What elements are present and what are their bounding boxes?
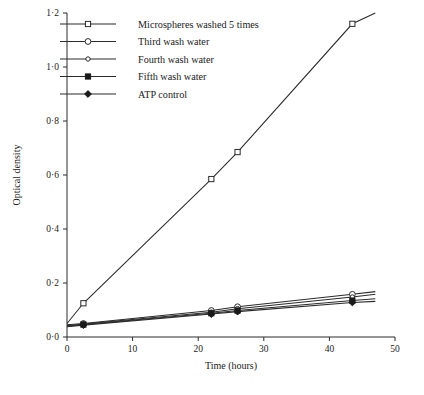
y-tick-label: 1·2 [46,8,59,18]
x-tick-label: 0 [65,344,70,354]
data-point-marker [81,301,86,306]
y-tick-label: 0·4 [46,224,59,234]
optical-density-line-chart: 0·00·20·40·60·81·01·2 01020304050 Time (… [0,0,424,395]
chart-legend: Microspheres washed 5 timesThird wash wa… [60,19,259,100]
legend-entry-2: Fourth wash water [60,54,214,65]
x-tick-label: 30 [259,344,269,354]
y-axis-title: Optical density [11,145,22,206]
x-tick-label: 40 [325,344,335,354]
data-series-group [67,13,375,327]
data-point-marker [235,149,240,154]
y-tick-label: 0·6 [46,170,59,180]
legend-label: ATP control [138,89,187,100]
legend-label: Fourth wash water [138,54,214,65]
legend-entry-4: ATP control [60,89,187,100]
data-point-marker [350,21,355,26]
legend-label: Fifth wash water [138,71,207,82]
data-point-marker [209,176,214,181]
series-line-0 [67,13,375,324]
data-point-marker [85,39,91,45]
y-tick-label: 0·0 [46,332,59,342]
series-line-4 [67,301,375,326]
legend-entry-3: Fifth wash water [60,71,207,82]
chart-figure: 0·00·20·40·60·81·01·2 01020304050 Time (… [0,0,424,395]
x-tick-label: 20 [193,344,203,354]
data-markers-group [80,21,356,328]
data-point-marker [86,57,90,61]
y-tick-label: 0·8 [46,116,59,126]
data-point-marker [85,74,90,79]
data-point-marker [85,91,92,98]
data-point-marker [85,21,90,26]
x-tick-label: 10 [128,344,138,354]
legend-entry-0: Microspheres washed 5 times [60,19,259,30]
x-tick-label: 50 [390,344,400,354]
series-line-2 [67,294,375,325]
y-tick-label: 1·0 [46,62,59,72]
x-axis-title: Time (hours) [205,360,257,372]
legend-label: Third wash water [138,36,210,47]
y-tick-label: 0·2 [46,278,59,288]
x-axis-ticks: 01020304050 [65,337,400,354]
legend-label: Microspheres washed 5 times [138,19,259,30]
series-line-1 [67,292,375,325]
legend-entry-1: Third wash water [60,36,210,47]
